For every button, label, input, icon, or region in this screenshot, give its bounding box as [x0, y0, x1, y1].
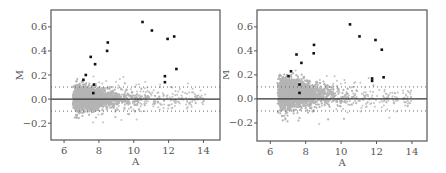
y-tick-label: 0.4: [31, 45, 47, 56]
x-tick-label: 12: [370, 146, 383, 157]
x-tick-label: 12: [162, 145, 175, 156]
data-point: [295, 53, 298, 56]
y-tick-label: 0.4: [237, 45, 253, 56]
x-tick-label: 14: [406, 146, 419, 157]
y-tick-label: 0.6: [31, 21, 47, 32]
plot-frame: [51, 10, 220, 140]
x-tick-label: 14: [197, 145, 210, 156]
data-point: [382, 76, 385, 79]
data-point: [89, 56, 92, 59]
data-point: [175, 68, 178, 71]
y-tick-label: 0.2: [31, 70, 47, 81]
y-tick-label: 0.6: [237, 21, 253, 32]
data-point: [358, 35, 361, 38]
data-point: [164, 75, 167, 78]
data-point: [164, 81, 167, 84]
plot-area: [257, 23, 427, 125]
y-tick-label: 0.2: [237, 69, 253, 80]
y-tick-label: −0.2: [23, 118, 47, 129]
chart-svg-left: 68101214−0.20.00.20.40.6AM: [0, 0, 223, 173]
data-point: [94, 63, 97, 66]
y-tick-label: 0.0: [31, 94, 47, 105]
plot-area: [51, 21, 220, 124]
y-axis-label: M: [223, 70, 231, 80]
data-point: [371, 80, 374, 83]
ma-plot-right: 68101214−0.20.00.20.40.6AM: [223, 0, 446, 173]
y-tick-label: 0.0: [237, 93, 253, 104]
data-point: [312, 52, 315, 55]
y-axis-label: M: [14, 70, 25, 80]
x-tick-label: 10: [127, 145, 140, 156]
ma-plot-left: 68101214−0.20.00.20.40.6AM: [0, 0, 223, 173]
data-point: [141, 21, 144, 24]
data-point: [374, 39, 377, 42]
y-tick-label: −0.2: [229, 117, 253, 128]
data-point: [381, 48, 384, 51]
x-axis-label: A: [131, 156, 140, 167]
data-point: [371, 77, 374, 80]
highlighted-points: [82, 21, 178, 95]
chart-svg-right: 68101214−0.20.00.20.40.6AM: [223, 0, 446, 173]
gene-cloud: [276, 70, 412, 125]
data-point: [298, 92, 301, 95]
data-point: [92, 92, 95, 95]
data-point: [313, 44, 316, 47]
data-point: [151, 29, 154, 32]
data-point: [298, 83, 301, 86]
data-point: [85, 74, 88, 77]
data-point: [173, 35, 176, 38]
x-tick-label: 6: [61, 145, 67, 156]
data-point: [82, 79, 85, 82]
x-tick-label: 8: [96, 145, 102, 156]
data-point: [166, 38, 169, 41]
data-point: [290, 70, 293, 73]
x-tick-label: 8: [303, 146, 309, 157]
x-tick-label: 6: [267, 146, 273, 157]
data-point: [349, 23, 352, 26]
data-point: [93, 83, 96, 86]
data-point: [106, 50, 109, 53]
data-point: [287, 75, 290, 78]
x-axis-label: A: [337, 157, 346, 168]
data-point: [107, 41, 110, 44]
x-tick-label: 10: [335, 146, 348, 157]
data-point: [300, 62, 303, 65]
